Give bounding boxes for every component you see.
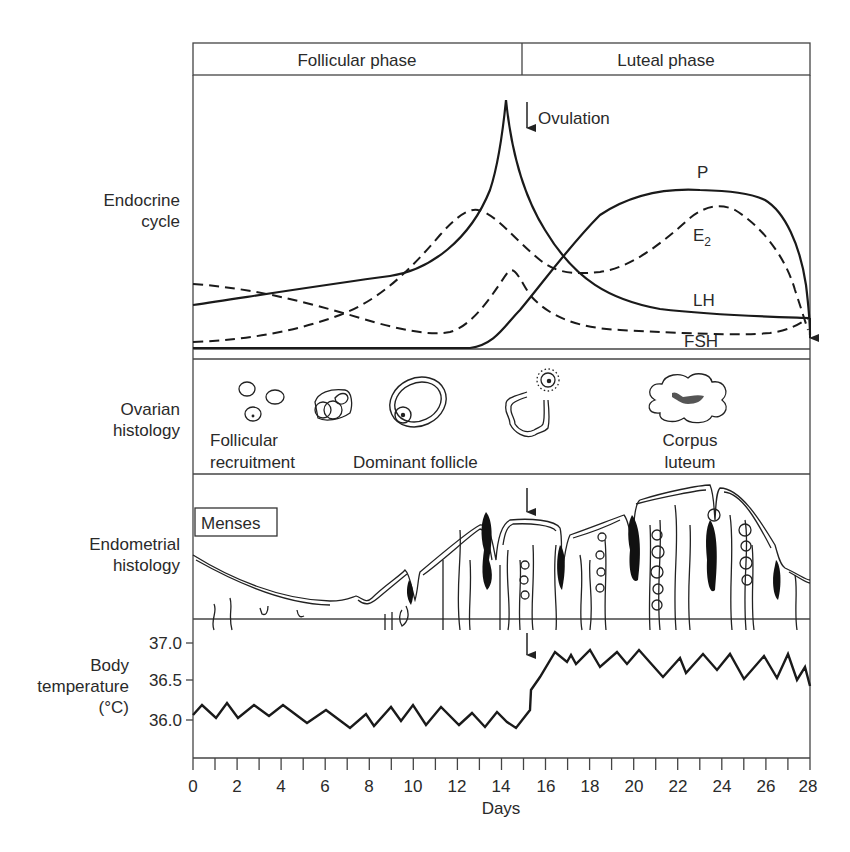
svg-text:14: 14	[492, 777, 511, 796]
temp-tick-37-0: 37.0	[149, 634, 182, 653]
x-axis-tick-labels: 0 2 4 6 8 10 12 14 16 18 20 22 24 26 28	[188, 777, 817, 796]
p-label: P	[697, 163, 708, 182]
temperature-curve	[193, 650, 810, 728]
svg-text:26: 26	[757, 777, 776, 796]
corpus-luteum-icon	[649, 374, 726, 423]
ovulation-label: Ovulation	[538, 109, 610, 128]
follicular-recruitment-label-1: Follicular	[210, 431, 278, 450]
svg-text:16: 16	[537, 777, 556, 796]
ovulating-follicle-icon	[506, 369, 559, 437]
svg-text:12: 12	[448, 777, 467, 796]
progesterone-curve	[193, 190, 810, 348]
svg-text:20: 20	[625, 777, 644, 796]
phase-header: Follicular phase Luteal phase	[193, 43, 810, 75]
body-temperature-label: Body temperature (°C)	[30, 655, 129, 718]
endometrial-surface	[193, 485, 810, 601]
temp-tick-36-5: 36.5	[149, 671, 182, 690]
luteal-phase-label: Luteal phase	[617, 51, 714, 70]
lh-curve	[193, 100, 810, 318]
temperature-panel: 37.0 36.5 36.0 0 2 4 6 8	[149, 633, 818, 818]
follicular-recruitment-label-2: recruitment	[210, 453, 295, 472]
follicular-phase-label: Follicular phase	[297, 51, 416, 70]
svg-text:2: 2	[232, 777, 241, 796]
svg-text:8: 8	[364, 777, 373, 796]
dominant-follicle-label: Dominant follicle	[353, 453, 478, 472]
endometrial-panel: Menses	[193, 485, 810, 630]
x-axis-label: Days	[482, 799, 521, 818]
e2-curve	[193, 206, 808, 342]
endocrine-cycle-label: Endocrine cycle	[40, 190, 180, 232]
endocrine-panel: Ovulation P E2 LH FSH	[193, 100, 810, 351]
x-axis-ticks	[193, 758, 810, 770]
dominant-follicle-icon	[382, 368, 455, 436]
svg-text:6: 6	[320, 777, 329, 796]
recruited-follicles-icon	[315, 390, 352, 420]
temp-tick-36-0: 36.0	[149, 711, 182, 730]
corpus-luteum-label-2: luteum	[664, 453, 715, 472]
svg-text:22: 22	[669, 777, 688, 796]
svg-text:24: 24	[713, 777, 732, 796]
svg-text:0: 0	[188, 777, 197, 796]
svg-text:10: 10	[404, 777, 423, 796]
corpus-luteum-label-1: Corpus	[663, 431, 718, 450]
endometrial-histology-label: Endometrial histology	[30, 534, 180, 576]
svg-text:4: 4	[276, 777, 285, 796]
ovarian-panel: Follicular recruitment Dominant follicle…	[193, 359, 810, 474]
ovarian-histology-label: Ovarian histology	[40, 399, 180, 441]
primordial-follicles-icon	[239, 382, 284, 421]
svg-text:18: 18	[581, 777, 600, 796]
lh-label: LH	[693, 291, 715, 310]
fsh-curve	[193, 270, 808, 334]
svg-text:28: 28	[799, 777, 818, 796]
fsh-label: FSH	[684, 332, 718, 351]
menses-label: Menses	[201, 514, 261, 533]
e2-label: E2	[693, 226, 711, 249]
